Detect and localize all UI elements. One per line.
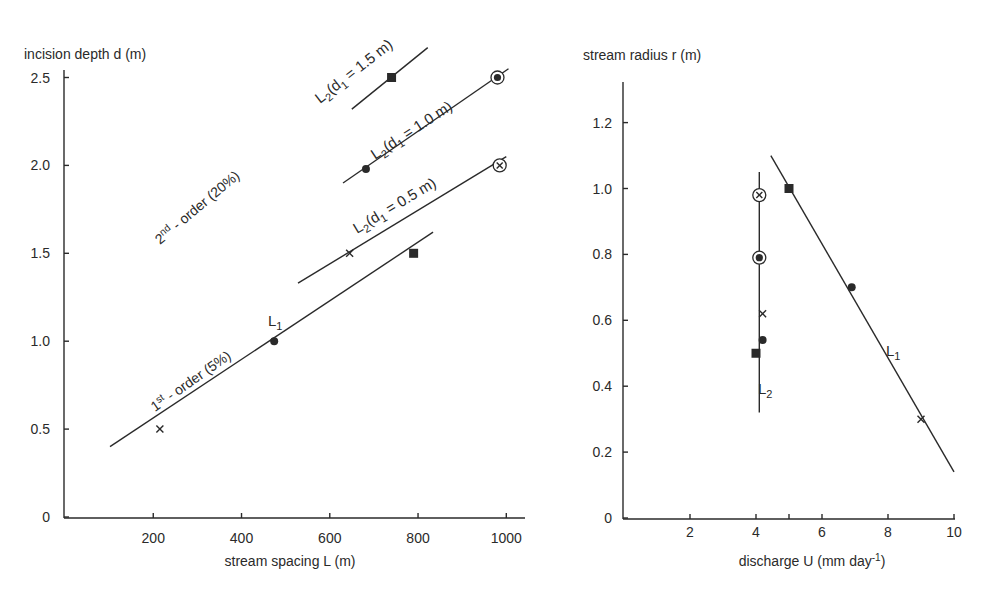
square-marker-icon bbox=[785, 184, 794, 193]
x-tick-label: 1000 bbox=[491, 530, 522, 546]
x-axis-title: stream spacing L (m) bbox=[225, 553, 356, 569]
circled-cross-marker-icon bbox=[493, 159, 506, 172]
order-annotation: 2nd - order (20%) bbox=[151, 167, 243, 248]
order-annotation: 1st - order (5%) bbox=[147, 347, 234, 415]
figure-canvas: 200400600800100000.51.01.52.02.5incision… bbox=[0, 0, 996, 603]
right-chart: 24681000.20.40.60.81.01.2stream radius r… bbox=[583, 47, 962, 569]
square-marker-icon bbox=[409, 249, 418, 258]
y-axis-title: stream radius r (m) bbox=[583, 47, 701, 63]
dot-marker-icon bbox=[759, 336, 767, 344]
y-tick-label: 0.2 bbox=[593, 444, 613, 460]
square-marker-icon bbox=[752, 349, 761, 358]
x-tick-label: 600 bbox=[318, 530, 342, 546]
y-tick-label: 1.0 bbox=[31, 333, 51, 349]
dot-marker-icon bbox=[848, 283, 856, 291]
l2-series-label: L2(d1 = 0.5 m) bbox=[350, 174, 440, 239]
circled-cross-marker-icon bbox=[753, 189, 766, 202]
circled-dot-marker-icon bbox=[753, 251, 766, 264]
x-tick-label: 8 bbox=[884, 524, 892, 540]
y-axis-title: incision depth d (m) bbox=[24, 46, 146, 62]
x-tick-label: 400 bbox=[230, 530, 254, 546]
y-tick-label: 0 bbox=[42, 509, 50, 525]
circled-dot-marker-icon bbox=[491, 71, 504, 84]
y-tick-label: 2.0 bbox=[31, 157, 51, 173]
dot-marker-icon bbox=[270, 337, 278, 345]
l2-series-label: L2(d1 = 1.5 m) bbox=[311, 35, 397, 108]
x-tick-label: 4 bbox=[752, 524, 760, 540]
x-axis-title: discharge U (mm day-1) bbox=[739, 552, 886, 569]
y-tick-label: 0.6 bbox=[593, 312, 613, 328]
y-tick-label: 1.2 bbox=[593, 115, 613, 131]
y-tick-label: 0 bbox=[604, 510, 612, 526]
series-line bbox=[771, 156, 954, 472]
l2-series-label: L2 bbox=[758, 380, 772, 400]
x-tick-label: 2 bbox=[686, 524, 694, 540]
cross-marker-icon bbox=[156, 426, 163, 433]
y-tick-label: 0.5 bbox=[31, 421, 51, 437]
y-tick-label: 0.8 bbox=[593, 246, 613, 262]
l2-series-label: L2(d1 = 1.0 m) bbox=[367, 97, 456, 165]
x-tick-label: 6 bbox=[818, 524, 826, 540]
cross-marker-icon bbox=[759, 310, 766, 317]
left-chart: 200400600800100000.51.01.52.02.5incision… bbox=[24, 35, 525, 569]
x-tick-label: 800 bbox=[406, 530, 430, 546]
x-tick-label: 10 bbox=[946, 524, 962, 540]
series-line bbox=[298, 157, 506, 284]
x-tick-label: 200 bbox=[142, 530, 166, 546]
y-tick-label: 1.5 bbox=[31, 245, 51, 261]
l1-series-label: L1 bbox=[268, 312, 282, 332]
y-tick-label: 0.4 bbox=[593, 378, 613, 394]
dot-marker-icon bbox=[362, 165, 370, 173]
square-marker-icon bbox=[387, 73, 396, 82]
y-tick-label: 2.5 bbox=[31, 70, 51, 86]
y-tick-label: 1.0 bbox=[593, 181, 613, 197]
